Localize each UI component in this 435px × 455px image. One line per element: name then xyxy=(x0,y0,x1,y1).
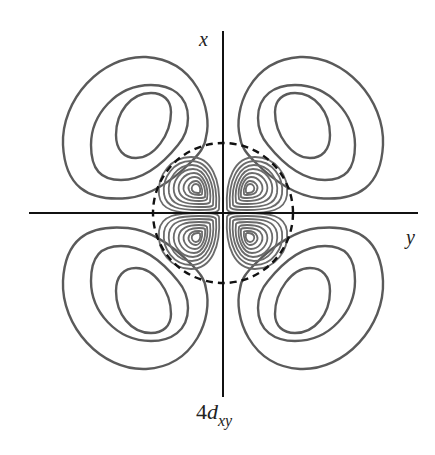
orbital-contour-diagram xyxy=(0,0,435,455)
inner-lobe-lower-left xyxy=(159,213,219,269)
caption-letter: d xyxy=(207,399,218,424)
outer-lobe-lower-right xyxy=(238,227,383,369)
inner-lobe-upper-right xyxy=(227,157,287,213)
caption-subscript: xy xyxy=(218,412,232,429)
axis-label-y: y xyxy=(406,226,415,249)
outer-lobe-upper-right xyxy=(238,57,383,199)
figure-caption: 4dxy xyxy=(196,399,232,425)
axis-label-x: x xyxy=(199,28,208,51)
caption-prefix: 4 xyxy=(196,399,207,424)
outer-lobe-upper-left xyxy=(63,57,208,199)
outer-lobe-lower-left xyxy=(63,227,208,369)
inner-lobe-upper-left xyxy=(159,157,219,213)
inner-lobe-lower-right xyxy=(227,213,287,269)
